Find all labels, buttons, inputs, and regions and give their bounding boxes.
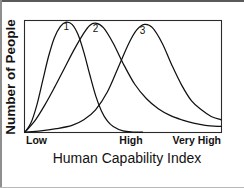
curve-1 bbox=[25, 22, 143, 132]
xtick-label-very-high: Very High bbox=[173, 134, 221, 146]
chart-figure: 1 2 3 Low High Very High Human Capabilit… bbox=[0, 0, 244, 188]
curve-2 bbox=[25, 23, 221, 132]
xtick-label-low: Low bbox=[26, 134, 48, 146]
curve-label-2: 2 bbox=[93, 23, 99, 34]
curve-label-3: 3 bbox=[140, 25, 146, 36]
curve-label-1: 1 bbox=[63, 21, 69, 32]
y-axis-title: Number of People bbox=[3, 19, 18, 135]
capability-distribution-chart: 1 2 3 Low High Very High Human Capabilit… bbox=[0, 0, 244, 188]
x-axis-title: Human Capability Index bbox=[53, 150, 202, 166]
curve-3 bbox=[25, 24, 221, 132]
xtick-label-high: High bbox=[119, 134, 142, 146]
